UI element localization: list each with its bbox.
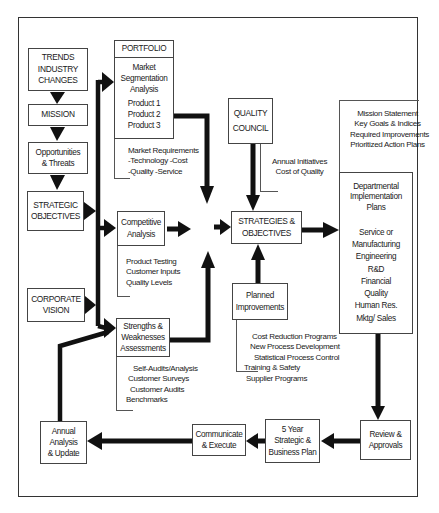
mission-statement-bracket bbox=[339, 100, 419, 101]
planned-improvements-box: Planned Improvements bbox=[232, 283, 288, 320]
quality-council-notes: Annual Initiatives Cost of Quality bbox=[272, 157, 327, 178]
strengths-notes: Self-Audits/Analysis Customer Surveys Cu… bbox=[128, 364, 198, 406]
strengths-weaknesses-box: Strengths & Weaknesses Assessments bbox=[116, 318, 170, 357]
competitive-analysis-box: Competitive Analysis bbox=[117, 211, 165, 246]
planned-notes: Cost Reduction Programs New Process Deve… bbox=[248, 332, 340, 384]
portfolio-body-box: Market Segmentation Analysis Product 1 P… bbox=[114, 57, 174, 139]
competitive-notes: Product Testing Customer Inputs Quality … bbox=[126, 257, 180, 288]
mission-statement-notes: Mission Statement Key Goals & Indices Re… bbox=[350, 109, 425, 151]
strategies-objectives-box: STRATEGIES & OBJECTIVES bbox=[231, 211, 302, 244]
opportunities-threats-box: Opportunities & Threats bbox=[28, 142, 88, 174]
trends-industry-changes-box: TRENDS INDUSTRY CHANGES bbox=[28, 48, 88, 91]
mission-statement-bracket-left bbox=[339, 100, 340, 172]
quality-council-box: QUALITY COUNCIL bbox=[228, 98, 273, 144]
strategic-objectives-box: STRATEGIC OBJECTIVES bbox=[27, 191, 84, 231]
review-approvals-box: Review & Approvals bbox=[360, 420, 411, 460]
annual-analysis-box: Annual Analysis & Update bbox=[40, 421, 87, 464]
portfolio-header-box: PORTFOLIO bbox=[114, 40, 174, 58]
five-year-plan-box: 5 Year Strategic & Business Plan bbox=[265, 419, 320, 463]
communicate-execute-box: Communicate & Execute bbox=[192, 424, 246, 456]
mission-box: MISSION bbox=[28, 104, 88, 126]
portfolio-notes: Market Requirements -Technology -Cost -Q… bbox=[128, 146, 199, 177]
departmental-plans-box: Departmental Implementation Plans Servic… bbox=[339, 172, 413, 334]
corporate-vision-box: CORPORATE VISION bbox=[27, 288, 85, 322]
